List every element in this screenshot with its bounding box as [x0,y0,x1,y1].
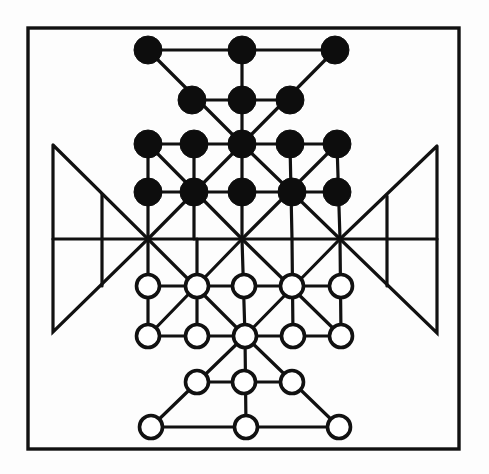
white-piece[interactable] [235,416,258,439]
white-piece[interactable] [328,416,351,439]
black-piece[interactable] [323,178,351,206]
black-piece[interactable] [180,178,208,206]
black-piece[interactable] [276,86,304,114]
white-piece[interactable] [137,325,160,348]
black-piece[interactable] [228,130,256,158]
black-piece[interactable] [178,86,206,114]
black-piece[interactable] [134,130,162,158]
white-piece[interactable] [186,275,209,298]
black-piece[interactable] [180,130,208,158]
black-piece[interactable] [228,86,256,114]
black-piece[interactable] [134,178,162,206]
black-piece[interactable] [321,36,349,64]
white-piece[interactable] [281,275,304,298]
white-piece[interactable] [330,325,353,348]
white-piece[interactable] [282,325,305,348]
white-piece[interactable] [186,371,209,394]
white-piece[interactable] [140,416,163,439]
white-piece[interactable] [137,275,160,298]
black-piece[interactable] [228,178,256,206]
white-piece[interactable] [330,275,353,298]
white-piece[interactable] [234,325,257,348]
black-piece[interactable] [228,36,256,64]
black-piece[interactable] [134,36,162,64]
white-piece[interactable] [186,325,209,348]
white-piece[interactable] [281,371,304,394]
white-piece[interactable] [233,371,256,394]
black-piece[interactable] [278,178,306,206]
black-piece[interactable] [276,130,304,158]
white-piece[interactable] [233,275,256,298]
black-piece[interactable] [323,130,351,158]
game-board [0,0,489,474]
